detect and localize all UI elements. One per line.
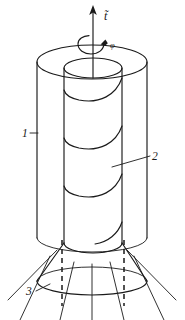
vector-label-group: t̃	[104, 9, 109, 23]
technical-figure: t̃ φ 1 2 3	[0, 0, 185, 320]
inner-cylinder	[64, 58, 122, 253]
outer-cylinder	[37, 45, 147, 238]
callout-2-label: 2	[152, 150, 158, 162]
axial-vector-label: t̃	[104, 9, 109, 23]
callout-2-group: 2	[112, 150, 158, 167]
rotation-angle-label: φ	[110, 40, 115, 50]
callout-3-label: 3	[25, 285, 32, 297]
rotation-symbol-group: φ	[110, 40, 115, 50]
callout-1-group: 1	[22, 127, 38, 139]
callout-3-group: 3	[25, 284, 50, 297]
axis-vector-arrow	[89, 5, 97, 78]
helical-bands	[64, 78, 122, 244]
radiating-flow-lines	[8, 250, 176, 320]
figure-canvas: t̃ φ 1 2 3	[0, 0, 185, 320]
callout-1-label: 1	[22, 127, 28, 139]
